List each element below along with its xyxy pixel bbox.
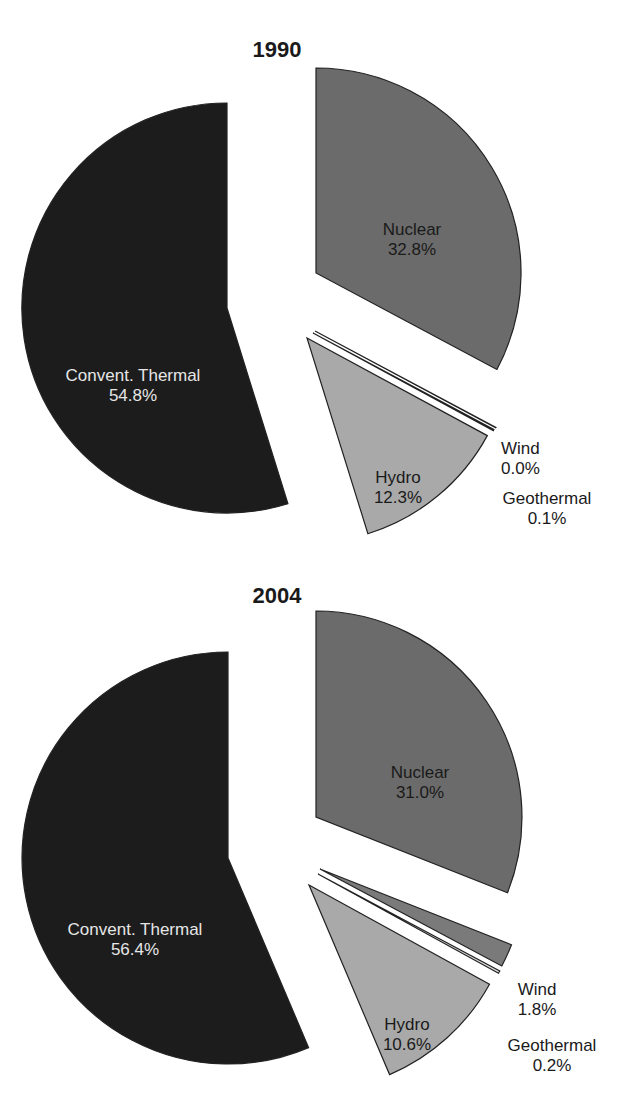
slice-thermal: [22, 103, 288, 513]
label-geothermal: Geothermal0.1%: [503, 489, 592, 528]
label-hydro: Hydro12.3%: [374, 468, 422, 507]
chart-title: 2004: [253, 583, 303, 608]
pie-chart-2004: 2004 Nuclear31.0% Convent. Thermal56.4% …: [22, 583, 596, 1075]
label-nuclear: Nuclear32.8%: [383, 220, 442, 259]
label-geothermal: Geothermal0.2%: [508, 1036, 597, 1075]
label-wind: Wind1.8%: [518, 980, 557, 1019]
label-nuclear: Nuclear31.0%: [391, 763, 450, 802]
slice-nuclear: [316, 68, 521, 370]
slice-nuclear: [316, 611, 522, 893]
chart-title: 1990: [253, 37, 302, 62]
slice-thermal: [22, 652, 309, 1064]
label-hydro: Hydro10.6%: [383, 1015, 431, 1054]
label-wind: Wind0.0%: [501, 439, 540, 478]
figure: 1990 Nuclear32.8% Convent. Thermal54.8% …: [0, 0, 638, 1103]
pie-chart-1990: 1990 Nuclear32.8% Convent. Thermal54.8% …: [22, 37, 592, 534]
